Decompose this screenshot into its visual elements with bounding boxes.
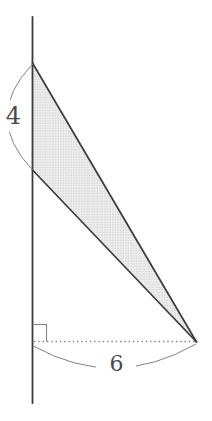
label-6: 6 <box>110 351 124 376</box>
label-4: 4 <box>6 102 21 130</box>
geometry-figure: 4 6 <box>0 0 212 421</box>
diagram-canvas: 4 6 <box>0 0 212 421</box>
